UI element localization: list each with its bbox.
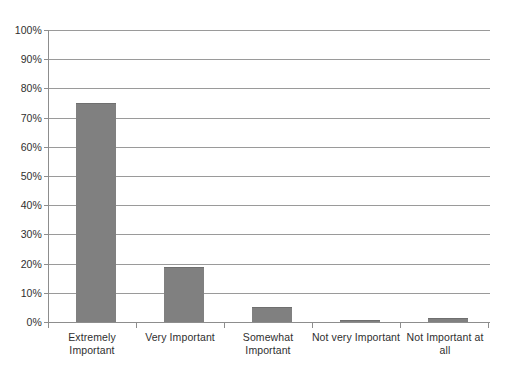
x-axis-label-somewhat-important: Somewhat Important <box>224 331 312 356</box>
y-tick-mark-50 <box>44 176 49 177</box>
y-axis-label-60: 60% <box>2 142 42 153</box>
x-tick-mark-2 <box>224 323 225 328</box>
y-axis-label-70: 70% <box>2 113 42 124</box>
y-axis-label-0: 0% <box>2 317 42 328</box>
plot-area <box>48 30 490 322</box>
y-axis-label-20: 20% <box>2 259 42 270</box>
x-tick-mark-4 <box>400 323 401 328</box>
y-tick-mark-100 <box>44 30 49 31</box>
bar-not-important-at-all <box>428 318 468 322</box>
y-axis-label-80: 80% <box>2 83 42 94</box>
bar-very-important <box>164 267 204 322</box>
y-axis-label-90: 90% <box>2 54 42 65</box>
gridline-80 <box>48 88 490 89</box>
x-tick-mark-5 <box>488 323 489 328</box>
y-axis-label-100: 100% <box>2 25 42 36</box>
y-tick-mark-40 <box>44 205 49 206</box>
y-tick-mark-10 <box>44 293 49 294</box>
x-axis-label-extremely-important: Extremely Important <box>48 331 136 356</box>
y-axis-label-50: 50% <box>2 171 42 182</box>
bar-extremely-important <box>76 103 116 322</box>
x-axis-label-not-important-at-all: Not Important at all <box>400 331 490 356</box>
y-tick-mark-20 <box>44 264 49 265</box>
y-tick-mark-70 <box>44 118 49 119</box>
y-axis-label-30: 30% <box>2 229 42 240</box>
gridline-90 <box>48 59 490 60</box>
y-tick-mark-80 <box>44 88 49 89</box>
y-axis-label-40: 40% <box>2 200 42 211</box>
gridline-100 <box>48 30 490 31</box>
bar-chart: 100% 90% 80% 70% 60% 50% 40% 30% 20% 10%… <box>0 0 509 374</box>
bar-not-very-important <box>340 320 380 322</box>
x-tick-mark-1 <box>136 323 137 328</box>
bar-somewhat-important <box>252 307 292 322</box>
y-tick-mark-60 <box>44 147 49 148</box>
x-tick-mark-3 <box>312 323 313 328</box>
x-axis-label-not-very-important: Not very Important <box>310 331 402 344</box>
y-tick-mark-90 <box>44 59 49 60</box>
x-axis-label-very-important: Very Important <box>136 331 224 344</box>
y-tick-mark-30 <box>44 234 49 235</box>
y-axis-label-10: 10% <box>2 288 42 299</box>
x-tick-mark-0 <box>48 323 49 328</box>
gridline-0-baseline <box>48 322 490 323</box>
